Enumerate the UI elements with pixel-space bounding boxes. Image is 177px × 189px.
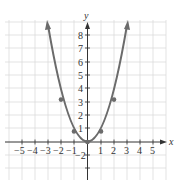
- svg-text:1: 1: [98, 145, 103, 156]
- y-axis-label: y: [83, 10, 89, 21]
- svg-text:2: 2: [111, 145, 116, 156]
- svg-text:4: 4: [137, 145, 142, 156]
- svg-text:−2: −2: [53, 145, 64, 156]
- svg-text:5: 5: [150, 145, 155, 156]
- svg-text:1: 1: [78, 123, 83, 134]
- svg-text:3: 3: [124, 145, 129, 156]
- svg-text:3: 3: [78, 97, 83, 108]
- parabola-graph: x y −5 −4 −3 −2 −1 1 2 3 4 5 8 7 6 5 4 3…: [0, 0, 177, 189]
- svg-text:−4: −4: [27, 145, 38, 156]
- svg-text:7: 7: [78, 43, 83, 54]
- svg-text:−3: −3: [40, 145, 51, 156]
- svg-text:8: 8: [78, 30, 83, 41]
- svg-text:−2: −2: [75, 150, 86, 161]
- svg-text:−5: −5: [14, 145, 25, 156]
- svg-text:5: 5: [78, 70, 83, 81]
- svg-text:2: 2: [78, 110, 83, 121]
- svg-text:6: 6: [78, 57, 83, 68]
- svg-text:4: 4: [78, 83, 83, 94]
- x-axis-label: x: [168, 136, 174, 147]
